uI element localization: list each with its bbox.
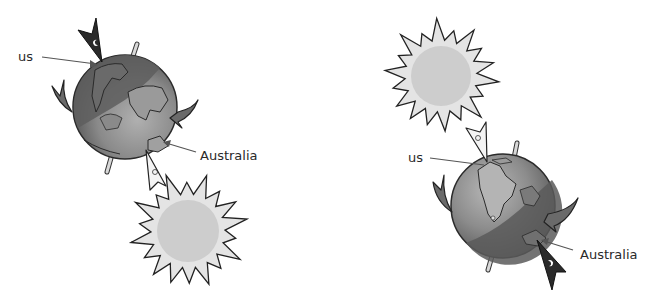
- leader-line-australia: [166, 143, 196, 152]
- label-australia-right: Australia: [580, 247, 638, 262]
- sun: [131, 175, 247, 284]
- left-panel: us Australia: [18, 18, 258, 284]
- label-us-right: us: [408, 150, 423, 165]
- sun: [385, 18, 499, 131]
- label-australia-left: Australia: [200, 148, 258, 163]
- day-pointer-australia: [146, 150, 166, 190]
- earth-globe: [73, 55, 177, 159]
- rotation-arrow-icon: [52, 80, 72, 112]
- night-pointer-australia: [537, 240, 566, 290]
- right-panel: us Australia: [385, 18, 637, 290]
- night-pointer-us: [78, 18, 102, 62]
- day-pointer-us: [466, 122, 487, 162]
- rotation-arrow-icon: [433, 175, 452, 212]
- earth-globe: [451, 154, 562, 265]
- label-us-left: us: [18, 49, 33, 64]
- leader-line-us: [42, 57, 96, 64]
- diagram-canvas: us Australia: [0, 0, 658, 298]
